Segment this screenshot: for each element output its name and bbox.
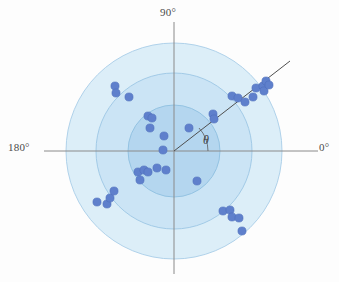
- data-point: [125, 93, 133, 101]
- data-point: [136, 176, 144, 184]
- data-point: [249, 93, 257, 101]
- theta-angle-label: θ: [203, 133, 209, 148]
- axis-tick-label-0: 0°: [319, 141, 329, 153]
- axis-tick-label-90: 90°: [160, 6, 176, 18]
- data-point: [93, 198, 101, 206]
- data-point: [146, 124, 154, 132]
- data-point: [238, 227, 246, 235]
- data-point: [241, 98, 249, 106]
- axis-tick-label-180: 180°: [8, 141, 30, 153]
- data-point: [153, 164, 161, 172]
- data-point: [112, 89, 120, 97]
- data-point: [210, 115, 218, 123]
- data-point: [159, 146, 167, 154]
- data-point: [160, 132, 168, 140]
- data-point: [144, 168, 152, 176]
- polar-scatter-figure: 90° 180° 0° θ: [0, 0, 339, 282]
- data-point: [235, 214, 243, 222]
- data-point: [265, 81, 273, 89]
- data-point: [148, 114, 156, 122]
- data-point: [110, 187, 118, 195]
- data-point: [162, 166, 170, 174]
- data-point: [185, 124, 193, 132]
- data-point: [193, 177, 201, 185]
- polar-plot-canvas: [0, 0, 339, 282]
